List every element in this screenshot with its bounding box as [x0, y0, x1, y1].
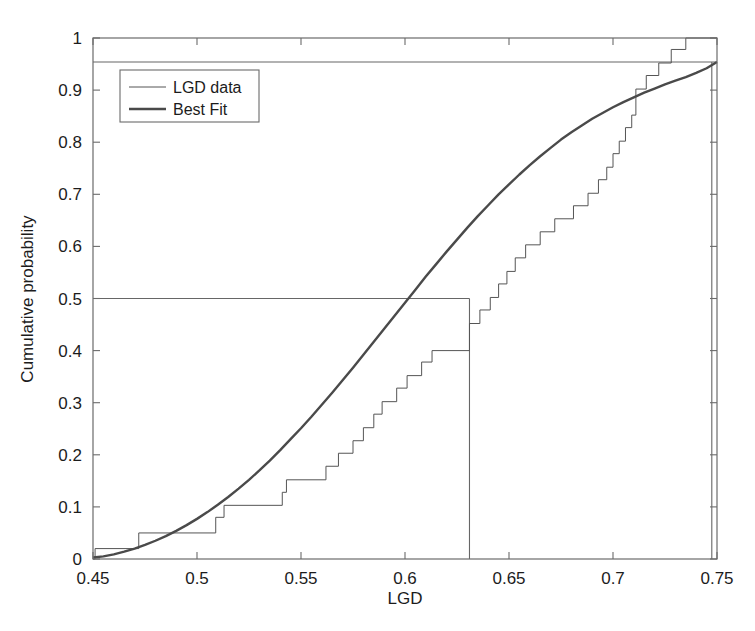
y-tick-label-3: 0.3: [58, 394, 82, 413]
x-axis-title: LGD: [388, 589, 423, 608]
cdf-plot: 0.450.50.550.60.650.70.75 00.10.20.30.40…: [0, 0, 755, 631]
x-tick-label-3: 0.6: [393, 569, 417, 588]
x-tick-label-4: 0.65: [492, 569, 525, 588]
chart-container: 0.450.50.550.60.650.70.75 00.10.20.30.40…: [0, 0, 755, 631]
y-tick-label-10: 1: [73, 29, 82, 48]
x-tick-label-1: 0.5: [185, 569, 209, 588]
x-tick-label-0: 0.45: [76, 569, 109, 588]
y-tick-label-8: 0.8: [58, 133, 82, 152]
legend-label-1: Best Fit: [173, 101, 228, 118]
y-tick-label-1: 0.1: [58, 498, 82, 517]
x-tick-label-5: 0.7: [601, 569, 625, 588]
legend-label-0: LGD data: [173, 79, 242, 96]
legend: LGD dataBest Fit: [120, 70, 259, 122]
y-tick-label-6: 0.6: [58, 237, 82, 256]
y-tick-label-2: 0.2: [58, 446, 82, 465]
y-tick-label-9: 0.9: [58, 81, 82, 100]
x-tick-label-2: 0.55: [284, 569, 317, 588]
y-tick-label-7: 0.7: [58, 185, 82, 204]
y-tick-label-5: 0.5: [58, 290, 82, 309]
y-axis-title: Cumulative probability: [18, 215, 37, 383]
y-tick-label-4: 0.4: [58, 342, 82, 361]
y-tick-label-0: 0: [73, 550, 82, 569]
x-tick-label-6: 0.75: [700, 569, 733, 588]
